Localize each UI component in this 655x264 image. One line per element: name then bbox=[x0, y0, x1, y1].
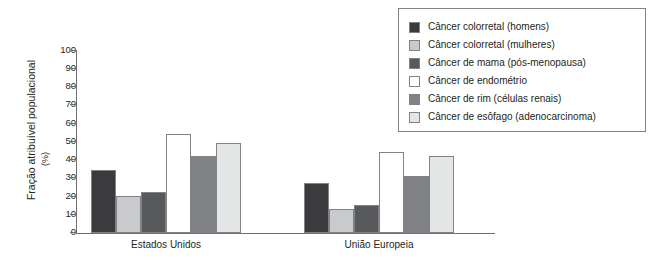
bar bbox=[379, 152, 404, 232]
bar-chart: Fração atribuível populacional (%) 01020… bbox=[0, 0, 655, 264]
legend-item-label: Câncer de esôfago (adenocarcinoma) bbox=[428, 112, 596, 122]
legend-item: Câncer colorretal (homens) bbox=[409, 18, 645, 36]
y-tick-mark bbox=[70, 196, 76, 197]
legend-item: Câncer de mama (pós-menopausa) bbox=[409, 54, 645, 72]
y-tick-mark bbox=[70, 141, 76, 142]
legend-item: Câncer de rim (células renais) bbox=[409, 90, 645, 108]
legend-item-label: Câncer colorretal (mulheres) bbox=[428, 40, 555, 50]
legend-item-label: Câncer colorretal (homens) bbox=[428, 22, 549, 32]
y-tick-mark bbox=[70, 232, 76, 233]
y-tick-mark bbox=[70, 159, 76, 160]
y-tick-mark bbox=[70, 68, 76, 69]
bar bbox=[216, 143, 241, 232]
x-group-label: União Europeia bbox=[304, 239, 454, 250]
legend-swatch-icon bbox=[409, 58, 420, 69]
bar bbox=[354, 205, 379, 232]
legend-item-label: Câncer de rim (células renais) bbox=[428, 94, 561, 104]
bar bbox=[91, 170, 116, 232]
y-tick-mark bbox=[70, 177, 76, 178]
y-tick-mark bbox=[70, 50, 76, 51]
legend-item-label: Câncer de mama (pós-menopausa) bbox=[428, 58, 586, 68]
legend-swatch-icon bbox=[409, 112, 420, 123]
bar bbox=[429, 156, 454, 233]
bar bbox=[404, 176, 429, 233]
bar bbox=[329, 209, 354, 233]
legend-item: Câncer de endométrio bbox=[409, 72, 645, 90]
x-group-label: Estados Unidos bbox=[91, 239, 241, 250]
bar bbox=[191, 156, 216, 233]
x-axis-line bbox=[76, 233, 495, 234]
legend-item-label: Câncer de endométrio bbox=[428, 76, 527, 86]
legend-swatch-icon bbox=[409, 76, 420, 87]
y-tick-mark bbox=[70, 214, 76, 215]
bar bbox=[141, 192, 166, 232]
y-tick-mark bbox=[70, 104, 76, 105]
bar bbox=[166, 134, 191, 233]
legend-swatch-icon bbox=[409, 94, 420, 105]
legend-item: Câncer de esôfago (adenocarcinoma) bbox=[409, 108, 645, 126]
bar bbox=[304, 183, 329, 232]
legend-swatch-icon bbox=[409, 40, 420, 51]
bar-group bbox=[91, 50, 241, 233]
legend-swatch-icon bbox=[409, 22, 420, 33]
y-tick-mark bbox=[70, 123, 76, 124]
y-tick-mark bbox=[70, 86, 76, 87]
bar bbox=[116, 196, 141, 233]
legend-item: Câncer colorretal (mulheres) bbox=[409, 36, 645, 54]
legend: Câncer colorretal (homens)Câncer colorre… bbox=[398, 8, 646, 132]
